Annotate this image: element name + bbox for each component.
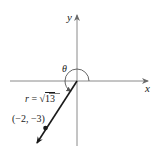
polar-coordinate-diagram: y x θ r = √13 (−2, −3) <box>0 0 164 159</box>
y-axis-label: y <box>66 11 72 23</box>
point-label: (−2, −3) <box>12 113 45 125</box>
x-axis-label: x <box>144 82 150 94</box>
radius-value: 13 <box>45 93 55 104</box>
point-marker <box>43 126 48 131</box>
radius-equals: = <box>29 93 40 104</box>
radius-label: r = √13 <box>25 93 55 104</box>
radius-ray <box>37 81 77 143</box>
angle-label: θ <box>62 63 67 74</box>
